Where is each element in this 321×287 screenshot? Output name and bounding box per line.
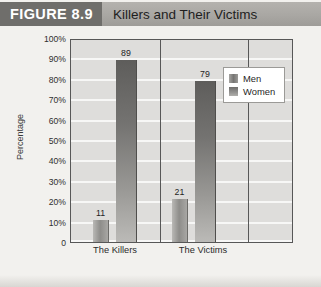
legend-item-women[interactable]: Women [229, 85, 275, 98]
figure-number-label: FIGURE 8.9 [10, 6, 93, 22]
y-axis-label: Percentage [15, 97, 25, 177]
y-tick-label: 90% [26, 54, 66, 64]
x-tick-label-killers: The Killers [93, 245, 137, 255]
figure-title: Killers and Their Victims [102, 7, 257, 22]
legend-swatch-women-icon [229, 87, 238, 96]
y-tick-label: 10% [26, 218, 66, 228]
legend-label-women: Women [243, 86, 275, 97]
bar-victims-men[interactable]: 21 [172, 199, 188, 242]
gridline [71, 120, 292, 122]
x-axis-tick-labels: The Killers The Victims [70, 245, 293, 261]
chart-area: Percentage 100% 90% 80% 70% 60% 50% 40% … [0, 26, 321, 275]
bar-killers-women[interactable]: 89 [116, 60, 137, 242]
y-tick-label: 80% [26, 75, 66, 85]
y-tick-label: 70% [26, 95, 66, 105]
legend-label-men: Men [243, 73, 261, 84]
y-tick-label: 50% [26, 136, 66, 146]
bar-victims-women[interactable]: 79 [195, 81, 216, 242]
gridline [71, 181, 292, 183]
y-tick-label: 40% [26, 156, 66, 166]
figure-number-band: FIGURE 8.9 [0, 2, 102, 26]
chart-legend: Men Women [223, 67, 285, 103]
bar-value-label: 21 [175, 187, 185, 197]
page-shadow [0, 275, 321, 287]
figure-header: FIGURE 8.9 Killers and Their Victims [0, 2, 321, 26]
gridline [71, 58, 292, 60]
bar-value-label: 79 [200, 69, 210, 79]
category-separator [160, 40, 161, 242]
y-tick-label: 0 [26, 238, 66, 248]
gridline [71, 140, 292, 142]
y-axis-tick-labels: 100% 90% 80% 70% 60% 50% 40% 30% 20% 10%… [26, 39, 66, 243]
y-tick-label: 60% [26, 116, 66, 126]
legend-swatch-men-icon [229, 74, 238, 83]
plot-area: 11 89 21 79 Men Women [70, 39, 293, 243]
legend-item-men[interactable]: Men [229, 72, 275, 85]
figure-container: FIGURE 8.9 Killers and Their Victims Per… [0, 0, 321, 287]
bar-value-label: 11 [96, 208, 105, 218]
gridline [71, 160, 292, 162]
bar-killers-men[interactable]: 11 [93, 220, 109, 242]
y-tick-label: 30% [26, 177, 66, 187]
x-tick-label-victims: The Victims [179, 245, 227, 255]
y-tick-label: 100% [26, 34, 66, 44]
y-tick-label: 20% [26, 197, 66, 207]
bar-value-label: 89 [121, 48, 131, 58]
